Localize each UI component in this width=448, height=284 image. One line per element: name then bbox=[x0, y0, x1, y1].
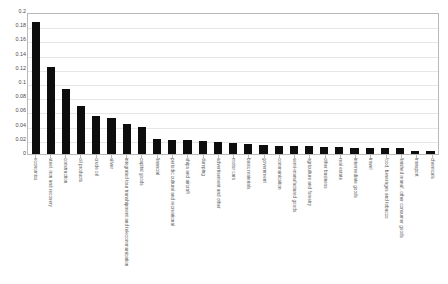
bar[interactable] bbox=[107, 118, 115, 154]
bar[interactable] bbox=[32, 22, 40, 154]
bar-slot bbox=[271, 14, 286, 154]
x-axis-label-slot: agriculture and forestry bbox=[302, 158, 317, 278]
x-axis-label-slot: dumping bbox=[195, 158, 210, 278]
bar[interactable] bbox=[411, 151, 419, 155]
x-axis-label-slot: capital goods bbox=[134, 158, 149, 278]
bar-slot bbox=[377, 14, 392, 154]
x-axis-label: basic materials bbox=[246, 158, 251, 189]
y-axis-tick-label: 0.18 bbox=[4, 23, 26, 28]
y-axis-tick-label: 0.02 bbox=[4, 137, 26, 142]
x-axis-label: dumping bbox=[200, 158, 205, 176]
bar[interactable] bbox=[275, 146, 283, 154]
x-axis-label: chemicals bbox=[429, 158, 434, 179]
x-axis-label: periodic cultural and recreational bbox=[170, 158, 175, 226]
x-axis-label-slot: steel, iron and recovery bbox=[42, 158, 57, 278]
x-axis-label-slot: intermediate goods bbox=[348, 158, 363, 278]
x-axis-label: travel bbox=[368, 158, 373, 170]
bar-slot bbox=[58, 14, 73, 154]
bar[interactable] bbox=[92, 116, 100, 155]
x-axis-label-slot: motor cars bbox=[225, 158, 240, 278]
bar-slot bbox=[150, 14, 165, 154]
y-axis-tick-label: 0.16 bbox=[4, 38, 26, 43]
bar[interactable] bbox=[244, 144, 252, 155]
x-axis-label: communication bbox=[277, 158, 282, 190]
chart-title bbox=[0, 0, 448, 11]
x-axis-label: motor cars bbox=[231, 158, 236, 180]
bar-slot bbox=[241, 14, 256, 154]
bar[interactable] bbox=[214, 142, 222, 154]
bar-slot bbox=[104, 14, 119, 154]
x-axis-label-slot: economics bbox=[27, 158, 42, 278]
x-axis-label-slot: integrated tour transhipment and telecom… bbox=[119, 158, 134, 278]
x-axis-label: construction bbox=[63, 158, 68, 183]
bar[interactable] bbox=[153, 139, 161, 154]
x-axis-label: capital goods bbox=[139, 158, 144, 186]
x-axis-label: semi-manufactured goods bbox=[292, 158, 297, 212]
bar[interactable] bbox=[138, 127, 146, 154]
x-axis-label-slot: food, beverages and tobacco bbox=[378, 158, 393, 278]
bar-chart: 0.20.180.160.140.120.10.080.060.040.020 … bbox=[0, 0, 448, 284]
x-axis-label-slot: periodic cultural and recreational bbox=[164, 158, 179, 278]
x-axis-label-slot: travel bbox=[363, 158, 378, 278]
bar-slot bbox=[256, 14, 271, 154]
bar-slot bbox=[210, 14, 225, 154]
x-axis-label-slot: crude oil bbox=[88, 158, 103, 278]
x-axis-label: finished manuf. other consumer goods bbox=[399, 158, 404, 238]
bar[interactable] bbox=[259, 145, 267, 154]
x-axis-label-slot: communication bbox=[271, 158, 286, 278]
x-axis-label: government bbox=[261, 158, 266, 183]
bar-slot bbox=[362, 14, 377, 154]
x-axis-label-slot: oil products bbox=[73, 158, 88, 278]
x-axis-labels: economicssteel, iron and recoveryconstru… bbox=[27, 158, 439, 278]
x-axis-label: transport bbox=[414, 158, 419, 177]
bar-slot bbox=[74, 14, 89, 154]
x-axis-label-slot: government bbox=[256, 158, 271, 278]
x-axis-label-slot: construction bbox=[58, 158, 73, 278]
bar[interactable] bbox=[183, 140, 191, 154]
x-axis-label: ships and aircraft bbox=[185, 158, 190, 194]
bar[interactable] bbox=[229, 143, 237, 154]
y-axis-tick-label: 0.14 bbox=[4, 52, 26, 57]
bar[interactable] bbox=[396, 148, 404, 154]
bar[interactable] bbox=[335, 147, 343, 154]
x-axis-label: silver bbox=[109, 158, 114, 169]
plot-area bbox=[27, 13, 439, 155]
x-axis-label: real estate bbox=[338, 158, 343, 180]
bar[interactable] bbox=[366, 148, 374, 154]
x-axis-label: integrated tour transhipment and telecom… bbox=[124, 158, 129, 266]
x-axis-label-slot: ships and aircraft bbox=[180, 158, 195, 278]
bar-slot bbox=[225, 14, 240, 154]
bar-slot bbox=[43, 14, 58, 154]
x-axis-label: other business bbox=[322, 158, 327, 189]
x-axis-label-slot: silver bbox=[103, 158, 118, 278]
bar[interactable] bbox=[123, 124, 131, 154]
bars-layer bbox=[28, 14, 438, 154]
bar[interactable] bbox=[305, 146, 313, 154]
bar[interactable] bbox=[62, 89, 70, 154]
y-axis-tick-label: 0.04 bbox=[4, 123, 26, 128]
x-axis-label-slot: real estate bbox=[332, 158, 347, 278]
bar[interactable] bbox=[320, 147, 328, 154]
x-axis-label: crude oil bbox=[93, 158, 98, 176]
bar-slot bbox=[332, 14, 347, 154]
bar-slot bbox=[301, 14, 316, 154]
y-axis-tick-label: 0.08 bbox=[4, 94, 26, 99]
bar[interactable] bbox=[77, 106, 85, 154]
bar[interactable] bbox=[290, 146, 298, 154]
bar[interactable] bbox=[199, 141, 207, 154]
bar-slot bbox=[286, 14, 301, 154]
bar-slot bbox=[423, 14, 438, 154]
bar[interactable] bbox=[168, 140, 176, 154]
bar[interactable] bbox=[47, 67, 55, 154]
x-axis-label: oil products bbox=[78, 158, 83, 182]
bar[interactable] bbox=[426, 151, 434, 155]
x-axis-label: financial bbox=[154, 158, 159, 175]
y-axis-tick-label: 0 bbox=[4, 151, 26, 156]
x-axis-label-slot: financial bbox=[149, 158, 164, 278]
bar-slot bbox=[195, 14, 210, 154]
bar[interactable] bbox=[350, 148, 358, 154]
bar-slot bbox=[134, 14, 149, 154]
y-axis-tick-label: 0.12 bbox=[4, 66, 26, 71]
x-axis-label: steel, iron and recovery bbox=[48, 158, 53, 207]
bar[interactable] bbox=[381, 148, 389, 154]
